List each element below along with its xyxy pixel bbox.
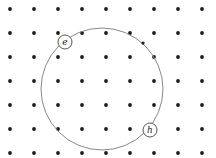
lattice-dot	[8, 103, 12, 107]
lattice-dot	[8, 31, 12, 35]
lattice-dot	[104, 55, 108, 59]
lattice-dot	[56, 151, 60, 155]
lattice-dot	[8, 127, 12, 131]
lattice-dot	[56, 7, 60, 11]
lattice-dot	[200, 127, 204, 131]
lattice-dot	[32, 127, 36, 131]
lattice-dot	[56, 55, 60, 59]
lattice-dot	[176, 151, 180, 155]
lattice-dot	[32, 31, 36, 35]
lattice-dot	[200, 79, 204, 83]
lattice-dot	[32, 103, 36, 107]
lattice-dot	[104, 151, 108, 155]
lattice-dots	[8, 7, 204, 155]
lattice-dot	[80, 151, 84, 155]
lattice-dot	[8, 79, 12, 83]
lattice-dot	[56, 31, 60, 35]
lattice-dot	[176, 79, 180, 83]
lattice-dot	[200, 7, 204, 11]
lattice-dot	[200, 31, 204, 35]
lattice-dot	[8, 55, 12, 59]
lattice-dot	[104, 7, 108, 11]
lattice-dot	[8, 151, 12, 155]
lattice-dot	[176, 7, 180, 11]
lattice-dot	[152, 103, 156, 107]
lattice-dot	[152, 7, 156, 11]
lattice-dot	[128, 55, 132, 59]
lattice-dot	[104, 31, 108, 35]
lattice-dot	[80, 55, 84, 59]
label-text: e	[62, 37, 67, 47]
lattice-dot	[200, 103, 204, 107]
lattice-dot	[128, 127, 132, 131]
label-text: h	[147, 125, 153, 135]
lattice-dot	[32, 151, 36, 155]
lattice-dot	[128, 151, 132, 155]
label-h: h	[143, 123, 157, 137]
lattice-dot	[152, 31, 156, 35]
lattice-dot	[200, 151, 204, 155]
label-e: e	[58, 35, 72, 49]
lattice-dot	[32, 79, 36, 83]
lattice-dot	[80, 127, 84, 131]
lattice-dot	[32, 7, 36, 11]
lattice-dot	[80, 7, 84, 11]
lattice-dot	[128, 103, 132, 107]
lattice-dot	[176, 31, 180, 35]
lattice-dot	[176, 55, 180, 59]
lattice-dot	[56, 79, 60, 83]
lattice-dot	[128, 7, 132, 11]
lattice-dot	[104, 127, 108, 131]
lattice-dot	[104, 103, 108, 107]
labeled-points: eh	[58, 35, 157, 137]
lattice-dot	[152, 79, 156, 83]
lattice-dot	[80, 103, 84, 107]
lattice-dot	[152, 151, 156, 155]
lattice-dot	[176, 127, 180, 131]
lattice-dot	[56, 103, 60, 107]
lattice-diagram: eh	[0, 0, 216, 158]
arc-point	[141, 41, 144, 44]
lattice-dot	[104, 79, 108, 83]
lattice-dot	[80, 79, 84, 83]
lattice-dot	[200, 55, 204, 59]
lattice-dot	[32, 55, 36, 59]
lattice-dot	[128, 79, 132, 83]
lattice-dot	[8, 7, 12, 11]
lattice-dot	[176, 103, 180, 107]
